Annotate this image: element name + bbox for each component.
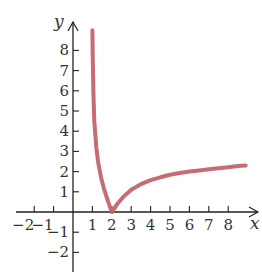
x-tick-label: 5 (165, 216, 175, 234)
y-tick-label: 4 (59, 122, 69, 140)
x-tick-label: 1 (88, 216, 98, 234)
y-tick-label: −2 (47, 243, 69, 261)
function-curve (92, 30, 245, 212)
x-tick-label: 2 (107, 216, 117, 234)
y-axis-label: y (53, 11, 64, 31)
y-tick-label: 2 (59, 163, 69, 181)
x-tick-label: 8 (223, 216, 233, 234)
x-tick-label: 4 (146, 216, 156, 234)
y-tick-label: 6 (59, 82, 69, 100)
x-tick-label: 3 (126, 216, 136, 234)
x-axis-label: x (250, 213, 260, 233)
x-tick-label: 7 (204, 216, 214, 234)
x-tick-label: 6 (185, 216, 195, 234)
y-tick-label: 5 (59, 102, 69, 120)
y-tick-label: −1 (47, 223, 69, 241)
y-tick-label: 3 (59, 142, 69, 160)
tick-labels: −2−112345678−2−112345678 (12, 41, 233, 261)
y-tick-label: 8 (59, 41, 69, 59)
chart: −2−112345678−2−112345678 x y (0, 0, 262, 276)
y-tick-label: 1 (59, 183, 69, 201)
y-tick-label: 7 (59, 62, 69, 80)
